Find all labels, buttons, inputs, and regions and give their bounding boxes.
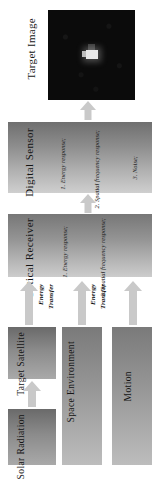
arrow-shaft [25, 290, 33, 325]
target-image-caption: Target Image [26, 18, 42, 92]
digital-sensor-item-2: 2. Spatial frequency response; [94, 130, 124, 190]
arrow-environment-to-receiver [73, 281, 91, 325]
arrow-label-energy-transfer-1-line1: Energy [38, 284, 47, 322]
digital-sensor-item-3: 3. Noise; [132, 156, 148, 190]
optical-receiver-title: Optical Receiver [24, 218, 50, 273]
arrow-shaft [28, 390, 36, 407]
arrow-shaft [85, 109, 92, 120]
stage-solar-radiation[interactable]: Solar Radiation [8, 409, 56, 465]
arrow-label-energy-transfer-1-line2: Transfer [48, 284, 57, 322]
arrow-shaft [129, 290, 137, 325]
arrow-solar-to-satellite [23, 381, 41, 407]
stage-motion[interactable]: Motion [112, 327, 152, 465]
arrow-shaft [78, 290, 86, 325]
stage-optical-receiver[interactable]: Optical Receiver 1. Energy response; 2. … [8, 214, 152, 277]
stage-digital-sensor[interactable]: Digital Sensor 1. Energy response; 2. Sp… [8, 122, 152, 193]
figure-canvas: Target Image Digital Sensor 1. Energy re… [0, 0, 158, 479]
target-spot [86, 50, 98, 59]
digital-sensor-title: Digital Sensor [24, 128, 50, 187]
digital-sensor-item-1: 1. Energy response; [60, 138, 82, 190]
space-environment-title: Space Environment [67, 341, 97, 453]
arrow-sensor-to-image [80, 101, 96, 120]
arrow-receiver-to-sensor [80, 194, 96, 213]
stage-space-environment[interactable]: Space Environment [62, 327, 102, 465]
optical-receiver-item-1: 1. Energy response; [62, 226, 84, 274]
arrow-satellite-to-receiver [20, 281, 38, 325]
arrow-label-energy-transfer-2-line2: Transfer [100, 284, 109, 322]
motion-title: Motion [124, 371, 142, 427]
target-image-caption-label: Target Image [26, 18, 38, 80]
arrow-motion-to-receiver [124, 281, 142, 325]
target-image-raster [48, 10, 135, 100]
arrow-shaft [85, 202, 92, 213]
stage-target-satellite[interactable]: Target Satellite [8, 327, 56, 379]
optical-receiver-item-2: 2. Spatial frequency response; [100, 218, 130, 274]
target-satellite-title: Target Satellite [17, 332, 47, 374]
arrow-label-energy-transfer-2-line1: Energy [90, 284, 99, 322]
solar-radiation-title: Solar Radiation [17, 414, 47, 460]
